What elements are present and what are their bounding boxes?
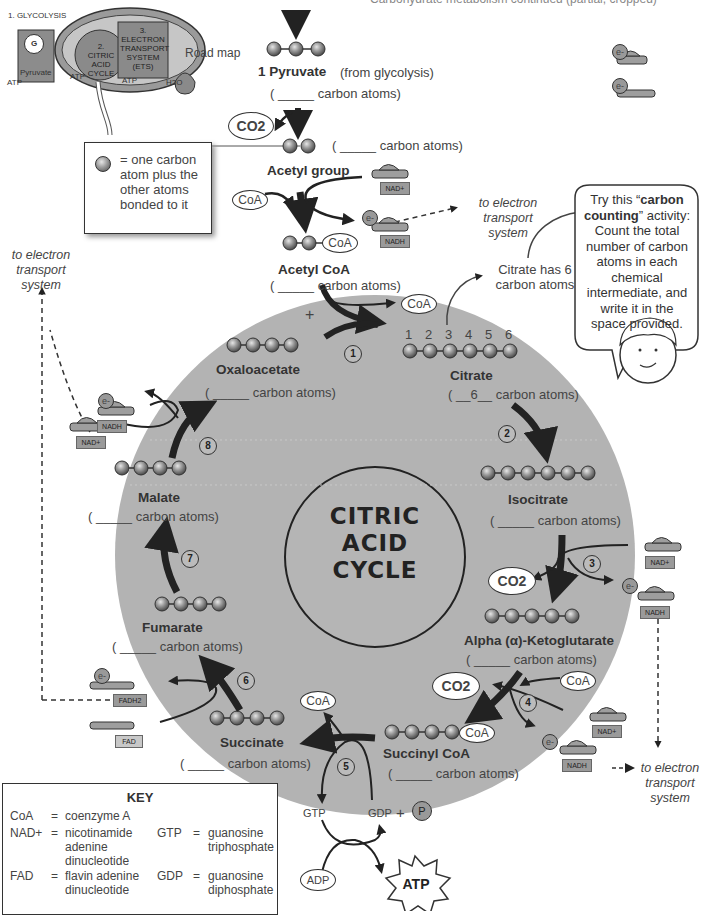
roadmap-step-citric: 2. CITRIC ACID CYCLE	[86, 42, 116, 78]
cycle-title-line1: CITRIC	[315, 503, 435, 530]
glucose-icon: G	[24, 34, 44, 54]
electron-icon: e-	[612, 78, 628, 94]
succinate-carbon-blank: ( _____ carbon atoms)	[180, 756, 311, 771]
cycle-title-line2: ACID	[315, 530, 435, 557]
key-abbr-gdp: GDP	[157, 869, 183, 883]
key-box: KEY CoA = coenzyme A NAD+ = nicotinamide…	[2, 783, 278, 915]
carbon-number: 5	[485, 327, 492, 342]
gtp-label: GTP	[303, 807, 326, 819]
pyruvate-label: 1 Pyruvate	[258, 64, 326, 79]
oxaloacetate-carbon-blank: ( _____ carbon atoms)	[205, 385, 336, 400]
nad-tag: NAD+	[76, 436, 106, 449]
step-2-badge: 2	[498, 425, 516, 443]
co2-bubble: CO2	[432, 672, 480, 700]
roadmap-atp-1: ATP	[7, 78, 22, 87]
roadmap-atp-3: ATP	[122, 76, 137, 85]
succinyl-coa-label: Succinyl CoA	[383, 746, 470, 761]
acetyl-coa-carbon-blank: ( _____ carbon atoms)	[270, 278, 401, 293]
key-def-fad: flavin adenine dinucleotide	[65, 869, 145, 897]
roadmap-label: Road map	[185, 46, 240, 60]
coa-bubble: CoA	[401, 294, 437, 314]
coa-bubble: CoA	[232, 190, 268, 210]
citrate-carbon-blank: ( __6__ carbon atoms)	[448, 387, 579, 402]
nadh-tag: NADH	[380, 235, 410, 248]
nadh-tag: NADH	[640, 606, 670, 619]
electron-icon: e-	[98, 393, 114, 409]
nadh-tag: NADH	[97, 420, 127, 433]
key-def-gdp: guanosine diphosphate	[208, 869, 278, 897]
electron-icon: e-	[542, 734, 558, 750]
step-7-badge: 7	[181, 550, 199, 568]
plus-sign: +	[396, 804, 405, 821]
carbon-number: 1	[405, 327, 412, 342]
isocitrate-carbon-blank: ( _____ carbon atoms)	[490, 513, 621, 528]
step-5-badge: 5	[337, 758, 355, 776]
key-def-nad: nicotinamide adenine dinucleotide	[65, 826, 145, 868]
step-4-badge: 4	[519, 694, 537, 712]
isocitrate-label: Isocitrate	[508, 492, 568, 507]
coa-bubble: CoA	[300, 691, 336, 711]
speech-post: ” activity: Count the total number of ca…	[586, 208, 690, 332]
roadmap-water: H2O	[166, 78, 182, 87]
key-eq: =	[193, 826, 200, 840]
carbon-number: 4	[465, 327, 472, 342]
key-eq: =	[51, 809, 58, 823]
carbon-number: 3	[445, 327, 452, 342]
key-abbr-nad: NAD+	[10, 826, 42, 840]
malate-label: Malate	[138, 490, 180, 505]
carbon-number: 2	[425, 327, 432, 342]
speech-bubble-text: Try this “carbon counting” activity: Cou…	[582, 192, 692, 332]
to-ets-label-top: to electron transport system	[466, 196, 550, 241]
malate-carbon-blank: ( _____ carbon atoms)	[88, 509, 219, 524]
speech-pre: Try this “	[590, 192, 640, 207]
carbon-legend-box: = one carbon atom plus the other atoms b…	[84, 142, 212, 234]
nad-tag: NAD+	[592, 725, 622, 738]
oxaloacetate-label: Oxaloacetate	[216, 362, 300, 377]
key-def-coa: coenzyme A	[65, 809, 130, 823]
cycle-title-line3: CYCLE	[315, 557, 435, 584]
key-eq: =	[193, 869, 200, 883]
succinyl-coa-carbon-blank: ( _____ carbon atoms)	[388, 766, 519, 781]
coa-bubble: CoA	[560, 671, 596, 691]
phosphate-icon: P	[412, 801, 432, 821]
alpha-ketoglutarate-label: Alpha (α)-Ketoglutarate	[464, 633, 614, 648]
pyruvate-chain	[267, 42, 325, 56]
coa-bubble: CoA	[322, 233, 358, 253]
to-ets-label-right: to electron transport system	[636, 761, 703, 806]
nad-tag: NAD+	[380, 182, 410, 195]
to-ets-label-left: to electron transport system	[4, 248, 78, 293]
step-1-badge: 1	[344, 345, 362, 363]
electron-icon: e-	[622, 578, 638, 594]
acetyl-coa-label: Acetyl CoA	[278, 262, 350, 277]
cycle-title: CITRIC ACID CYCLE	[315, 503, 435, 584]
roadmap-step-glycolysis: 1. GLYCOLYSIS	[8, 11, 66, 20]
fumarate-carbon-blank: ( _____ carbon atoms)	[112, 639, 243, 654]
succinate-label: Succinate	[220, 735, 284, 750]
step-8-badge: 8	[199, 437, 217, 455]
acetyl-group-carbon-blank: ( _____ carbon atoms)	[332, 138, 463, 153]
step-6-badge: 6	[237, 672, 255, 690]
key-eq: =	[51, 826, 58, 840]
key-title: KEY	[3, 790, 277, 805]
coa-bubble: CoA	[459, 723, 495, 743]
co2-bubble: CO2	[488, 567, 536, 595]
atp-star-label: ATP	[400, 876, 432, 892]
gdp-label: GDP	[368, 807, 392, 819]
plus-sign: +	[305, 306, 314, 324]
roadmap-pyruvate: Pyruvate	[20, 68, 52, 77]
key-eq: =	[51, 869, 58, 883]
carbon-ball-icon	[95, 156, 111, 172]
carbon-legend-text: = one carbon atom plus the other atoms b…	[120, 152, 208, 212]
alpha-ketoglutarate-carbon-blank: ( _____ carbon atoms)	[466, 652, 597, 667]
key-abbr-coa: CoA	[10, 809, 33, 823]
carbon-number: 6	[505, 327, 512, 342]
acetyl-group-label: Acetyl group	[267, 163, 350, 178]
key-abbr-gtp: GTP	[157, 826, 182, 840]
header-cropped-text: Carbohydrate metabolism continued (parti…	[370, 0, 657, 6]
pyruvate-note: (from glycolysis)	[340, 65, 434, 80]
electron-icon: e-	[362, 210, 378, 226]
fadh2-tag: FADH2	[113, 694, 147, 707]
nad-tag: NAD+	[645, 556, 675, 569]
fad-tag: FAD	[115, 735, 143, 748]
